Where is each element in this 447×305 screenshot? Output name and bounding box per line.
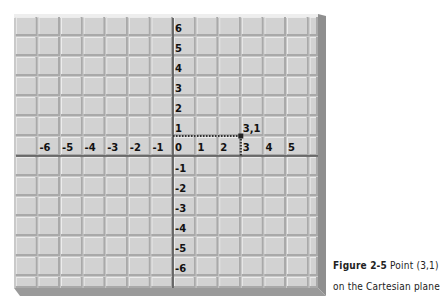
- figure-title: Point (3,1): [390, 260, 439, 271]
- grid-tile: [130, 178, 149, 194]
- grid-tile: [62, 78, 81, 94]
- grid-tile: [198, 18, 217, 34]
- y-tick-label: 3: [175, 83, 182, 94]
- grid-tile: [311, 98, 316, 114]
- grid-tile: [17, 218, 36, 234]
- y-tick-label: 5: [175, 43, 182, 54]
- grid-tile: [265, 238, 284, 254]
- grid-tile: [265, 258, 284, 274]
- grid-tile: [39, 58, 58, 74]
- grid-tile: [243, 278, 262, 286]
- grid-tile: [17, 118, 36, 134]
- grid-tile: [265, 78, 284, 94]
- grid-tile: [62, 58, 81, 74]
- panel-right-edge: [318, 14, 326, 296]
- grid-tile: [198, 258, 217, 274]
- grid-tile: [62, 198, 81, 214]
- grid-tile: [107, 178, 126, 194]
- grid-tile: [265, 178, 284, 194]
- grid-tile: [288, 278, 307, 286]
- grid-tile: [152, 118, 171, 134]
- grid-tile: [152, 278, 171, 286]
- grid-tile: [288, 198, 307, 214]
- grid-tile: [265, 58, 284, 74]
- y-tick-label: -2: [175, 183, 186, 194]
- grid-tile: [62, 178, 81, 194]
- x-tick-label: -1: [152, 142, 163, 153]
- grid-tile: [130, 218, 149, 234]
- grid-tile: [130, 278, 149, 286]
- grid-tile: [130, 18, 149, 34]
- figure-number: Figure 2-5: [333, 260, 387, 271]
- grid-tile: [198, 78, 217, 94]
- grid-tile: [17, 258, 36, 274]
- grid-tile: [85, 158, 104, 174]
- grid-tile: [265, 198, 284, 214]
- grid-tile: [39, 118, 58, 134]
- y-tick-label: 2: [175, 103, 182, 114]
- grid-tile: [85, 78, 104, 94]
- y-tick-label: 4: [175, 63, 182, 74]
- grid-tile: [152, 258, 171, 274]
- grid-tile: [311, 118, 316, 134]
- x-tick-label: 5: [288, 142, 295, 153]
- grid-tile: [107, 158, 126, 174]
- grid-tile: [198, 198, 217, 214]
- grid-tile: [220, 218, 239, 234]
- grid-tile: [17, 178, 36, 194]
- grid-tile: [17, 278, 36, 286]
- grid-tile: [85, 198, 104, 214]
- grid-tile: [243, 158, 262, 174]
- grid-tile: [220, 238, 239, 254]
- grid-tile: [62, 98, 81, 114]
- cartesian-plane-figure: -6-5-4-3-2-1012345654321-1-2-3-4-5-63,1 …: [0, 0, 447, 305]
- grid-tile: [265, 118, 284, 134]
- grid-tile: [39, 178, 58, 194]
- grid-tile: [265, 158, 284, 174]
- grid-tile: [311, 138, 316, 154]
- grid-tile: [17, 238, 36, 254]
- grid-tile: [243, 258, 262, 274]
- x-tick-label: 3: [243, 142, 250, 153]
- grid-tile: [152, 158, 171, 174]
- grid-tile: [198, 238, 217, 254]
- grid-tile: [85, 178, 104, 194]
- grid-tile: [85, 218, 104, 234]
- grid-tile: [288, 258, 307, 274]
- grid-tile: [17, 158, 36, 174]
- x-tick-label: -6: [39, 142, 50, 153]
- grid-tile: [243, 218, 262, 234]
- grid-tile: [288, 58, 307, 74]
- grid-tile: [17, 18, 36, 34]
- grid-tile: [243, 178, 262, 194]
- grid-tile: [198, 98, 217, 114]
- grid-tile: [220, 278, 239, 286]
- grid-tile: [17, 58, 36, 74]
- grid-tile: [39, 258, 58, 274]
- grid-tile: [152, 98, 171, 114]
- grid-tile: [107, 98, 126, 114]
- grid-tile: [220, 18, 239, 34]
- grid-tile: [220, 178, 239, 194]
- grid-tile: [107, 278, 126, 286]
- grid-tile: [62, 38, 81, 54]
- grid-tile: [107, 198, 126, 214]
- grid-tile: [288, 218, 307, 234]
- grid-tile: [243, 198, 262, 214]
- grid-tile: [152, 198, 171, 214]
- grid-tile: [39, 238, 58, 254]
- grid-tile: [17, 78, 36, 94]
- grid-tile: [152, 178, 171, 194]
- grid-tile: [311, 258, 316, 274]
- grid-tile: [311, 178, 316, 194]
- grid-tile: [130, 238, 149, 254]
- grid-tile: [85, 18, 104, 34]
- grid-tile: [152, 58, 171, 74]
- grid-tile: [220, 78, 239, 94]
- y-tick-label: -4: [175, 223, 186, 234]
- grid-tile: [198, 178, 217, 194]
- grid-tile: [39, 18, 58, 34]
- grid-tile: [288, 238, 307, 254]
- grid-tile: [265, 218, 284, 234]
- figure-title-line2: on the Cartesian plane: [333, 276, 447, 297]
